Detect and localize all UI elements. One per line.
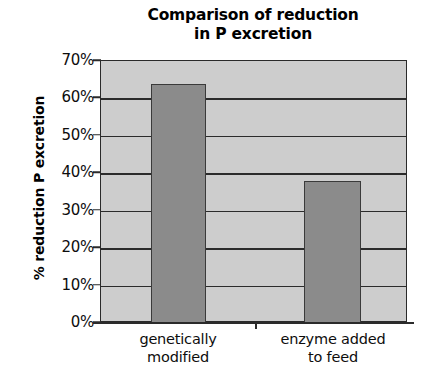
y-tick-mark-20: [93, 246, 101, 248]
x-tick-label-genetically-modified: genetically modified: [100, 331, 256, 366]
y-tick-label-40: 40%: [24, 163, 94, 181]
plot-area: [100, 60, 407, 322]
gridline-60: [101, 98, 406, 100]
x-tick-label-genetically-modified-line-2: modified: [100, 349, 256, 367]
bar-genetically-modified[interactable]: [151, 84, 206, 323]
chart-title-line-1: Comparison of reduction: [90, 6, 416, 25]
y-tick-label-60: 60%: [24, 88, 94, 106]
x-tick-label-genetically-modified-line-1: genetically: [100, 331, 256, 349]
chart-title-line-2: in P excretion: [90, 25, 416, 44]
bar-enzyme-added-to-feed[interactable]: [304, 181, 361, 323]
bar-chart-figure: Comparison of reduction in P excretion %…: [0, 0, 426, 390]
chart-title: Comparison of reduction in P excretion: [90, 6, 416, 44]
y-tick-mark-50: [93, 134, 101, 136]
x-tick-mark-category-divider: [255, 322, 257, 329]
y-tick-mark-60: [93, 97, 101, 99]
x-tick-label-enzyme-added-to-feed: enzyme added to feed: [255, 331, 411, 366]
gridline-50: [101, 136, 406, 138]
y-tick-mark-40: [93, 172, 101, 174]
x-axis-line: [93, 322, 414, 324]
y-tick-label-70: 70%: [24, 51, 94, 69]
y-tick-label-10: 10%: [24, 276, 94, 294]
x-tick-label-enzyme-added-to-feed-line-1: enzyme added: [255, 331, 411, 349]
y-tick-mark-70: [93, 59, 101, 61]
y-tick-mark-30: [93, 209, 101, 211]
y-tick-label-20: 20%: [24, 238, 94, 256]
y-tick-mark-10: [93, 284, 101, 286]
y-tick-label-0: 0%: [24, 313, 94, 331]
y-tick-label-30: 30%: [24, 201, 94, 219]
x-tick-label-enzyme-added-to-feed-line-2: to feed: [255, 349, 411, 367]
gridline-40: [101, 173, 406, 175]
y-tick-label-50: 50%: [24, 126, 94, 144]
